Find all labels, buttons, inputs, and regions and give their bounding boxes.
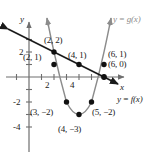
point-label-5-neg2: (5, −2) [92,108,115,117]
x-axis-label: x [120,83,124,92]
curve-label-g: y = g(x) [113,15,140,24]
y-tick-label-neg4: -4 [13,123,21,132]
point-label-2-1: (2, 1) [23,53,41,62]
point-2-2 [51,49,56,54]
point-label-4-neg3: (4, −3) [58,125,81,134]
point-label-2-2: (2, 2) [44,36,62,45]
point-label-4-1: (4, 1) [68,51,86,60]
point-3-neg2 [64,99,69,104]
point-label-3-neg2: (3, −2) [30,108,53,117]
point-6-1 [101,62,106,67]
point-2-1 [51,62,56,67]
point-5-neg2 [89,99,94,104]
point-6-0 [101,74,107,80]
x-tick-label-2: 2 [45,81,50,90]
y-axis [26,22,32,152]
y-axis-label: y [20,15,24,24]
x-tick-label-4: 4 [70,81,75,90]
curve-label-f: y = f(x) [117,95,142,104]
point-label-6-1: (6, 1) [108,50,126,59]
graph-figure: y x 2 -2 -4 2 4 y = g(x) y = f(x) (2, 2)… [0,0,159,157]
point-label-6-0: (6, 0) [108,60,126,69]
point-4-1 [76,62,81,67]
y-tick-label-neg2: -2 [13,98,21,107]
point-4-neg3 [76,112,81,117]
